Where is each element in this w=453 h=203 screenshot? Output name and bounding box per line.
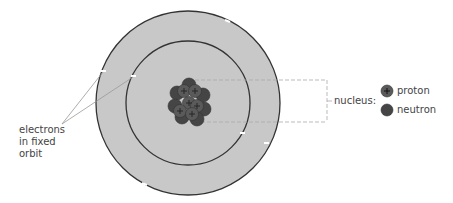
- electrons-label-line3: orbit: [19, 148, 65, 160]
- electrons-label: electrons in fixed orbit: [19, 124, 65, 160]
- proton-label: proton: [397, 85, 430, 97]
- neutron-label: neutron: [397, 104, 436, 116]
- neutron-icon: [381, 104, 393, 116]
- electrons-label-line1: electrons: [19, 124, 65, 136]
- proton-icon: [381, 85, 393, 97]
- electrons-label-line2: in fixed: [19, 136, 65, 148]
- atom-diagram: [0, 0, 453, 203]
- nucleus-label: nucleus:: [334, 95, 376, 107]
